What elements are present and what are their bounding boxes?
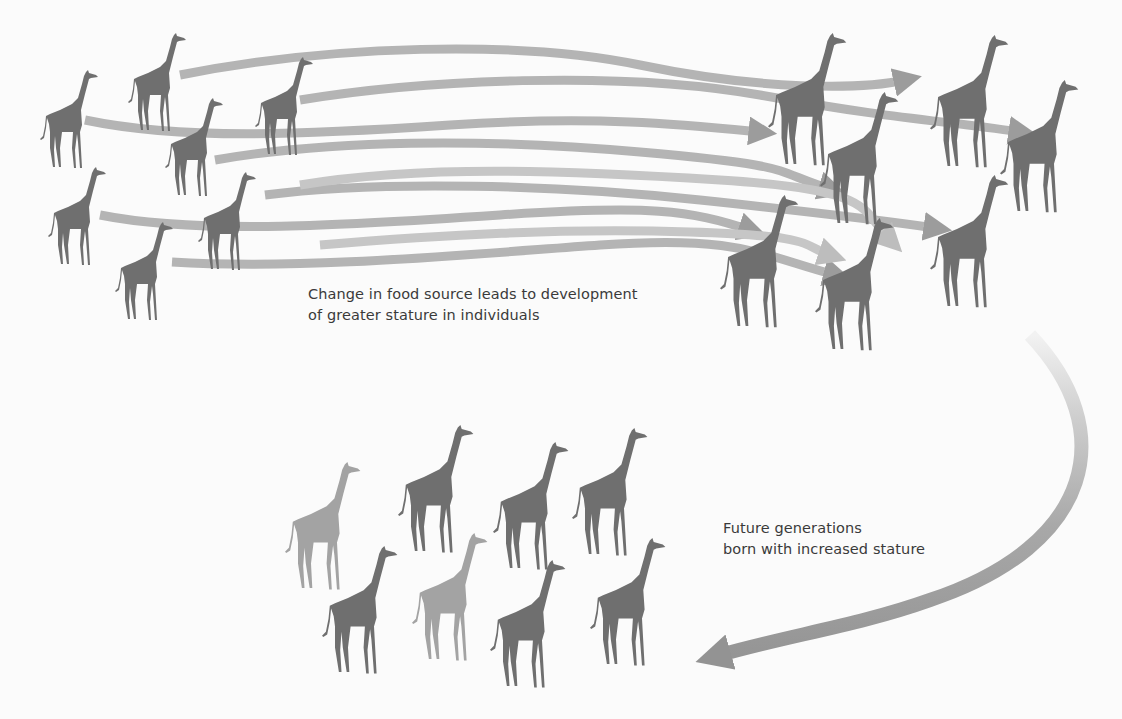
caption-change-in-food-source: Change in food source leads to developme… [308,284,638,326]
giraffe-icon [255,57,313,155]
generation-curved-arrow [720,335,1081,655]
group-original-population [40,33,313,320]
caption-change-line2: of greater stature in individuals [308,305,638,326]
giraffe-icon [815,218,893,350]
caption-change-line1: Change in food source leads to developme… [308,284,638,305]
giraffe-icon [398,425,473,552]
giraffe-icon [590,538,665,665]
caption-future-generations: Future generations born with increased s… [723,518,925,560]
giraffe-icon [115,222,173,320]
giraffe-icon [165,98,223,196]
giraffe-icon [48,167,106,265]
giraffe-icon [490,560,565,687]
caption-future-line1: Future generations [723,518,925,539]
giraffe-icon [930,35,1008,167]
giraffe-icon [285,462,360,589]
giraffe-icon [1000,80,1078,212]
giraffe-icon [198,172,256,270]
giraffe-icon [322,546,397,673]
caption-future-line2: born with increased stature [723,539,925,560]
giraffe-icon [768,33,846,165]
giraffe-icon [493,442,568,569]
giraffe-evolution-diagram [0,0,1122,719]
group-future-generations [285,425,665,687]
generation-arrow [720,335,1081,655]
giraffe-icon [128,33,186,131]
giraffe-icon [572,428,647,555]
development-arrows [85,49,1020,275]
giraffe-icon [930,175,1008,307]
development-arrow [85,120,760,134]
giraffe-icon [412,533,487,660]
